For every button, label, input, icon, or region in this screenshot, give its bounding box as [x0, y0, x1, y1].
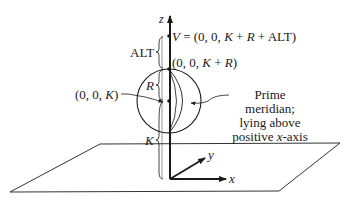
sphere-center-k: K [105, 87, 114, 102]
viewpoint-plus2: + ALT) [255, 29, 297, 44]
annotation-line-2: lying above [230, 116, 310, 130]
sphere-top-dot [167, 67, 171, 71]
viewpoint-eq: = (0, 0, [180, 29, 224, 44]
sphere-center-close: ) [114, 87, 118, 102]
sphere-top-k: K [202, 55, 211, 70]
ground-plane [10, 143, 340, 192]
annotation-line-3-pre: positive [232, 129, 276, 144]
annotation-line-3-post: -axis [282, 129, 307, 144]
alt-label: ALT [130, 46, 154, 59]
viewpoint-k: K [224, 29, 233, 44]
sphere-center-label: (0, 0, K) [75, 88, 118, 101]
sphere-top-r: R [225, 55, 233, 70]
r-label: R [146, 79, 154, 92]
viewpoint-plus1: + [233, 29, 247, 44]
viewpoint-v: V [172, 29, 180, 44]
sphere-top-plus: + [211, 55, 225, 70]
y-axis-label: y [208, 148, 214, 161]
sphere-top-open: (0, 0, [172, 55, 202, 70]
viewpoint-r: R [247, 29, 255, 44]
x-axis-label: x [229, 172, 235, 185]
viewpoint-dot [167, 34, 171, 38]
annotation-line-1: Prime meridian; [230, 88, 310, 116]
annotation-line-3: positive x-axis [230, 130, 310, 144]
prime-meridian-annotation: Prime meridian; lying above positive x-a… [230, 88, 310, 144]
sphere-center-dot [167, 99, 171, 103]
viewpoint-label: V = (0, 0, K + R + ALT) [172, 30, 296, 43]
k-label: K [145, 134, 154, 147]
sphere-center-open: (0, 0, [75, 87, 105, 102]
y-axis [170, 158, 205, 179]
z-axis-label: z [159, 13, 164, 25]
sphere-top-label: (0, 0, K + R) [172, 56, 237, 69]
sphere-top-close: ) [233, 55, 237, 70]
